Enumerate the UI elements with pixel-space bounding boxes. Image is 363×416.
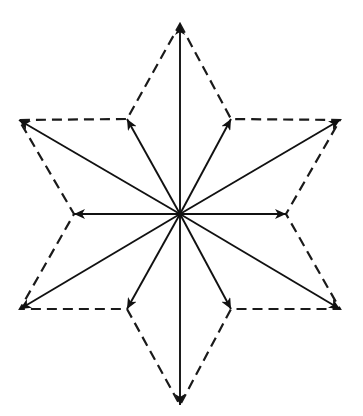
arrow-to-inner-upper-left (127, 119, 180, 214)
arrow-to-upper-right (180, 120, 340, 214)
vector-star-diagram (0, 0, 363, 416)
arrow-to-lower-right (180, 214, 340, 309)
arrow-to-lower-left (20, 214, 180, 309)
center-point (178, 212, 183, 217)
arrow-to-upper-left (19, 120, 180, 214)
arrow-to-inner-lower-left (127, 214, 180, 309)
